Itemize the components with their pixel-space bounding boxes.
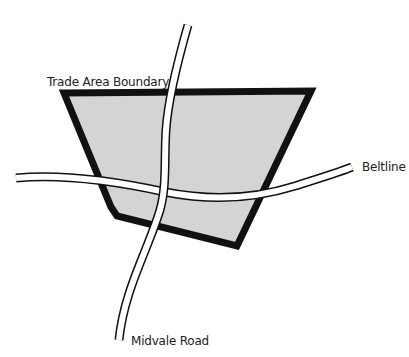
map-graphic	[0, 0, 409, 357]
trade-area-boundary	[64, 91, 311, 246]
midvale-road-label: Midvale Road	[131, 334, 209, 348]
trade-area-label: Trade Area Boundary	[47, 75, 169, 89]
trade-area-map: Trade Area Boundary Beltline Midvale Roa…	[0, 0, 409, 357]
beltline-label: Beltline	[362, 160, 406, 174]
